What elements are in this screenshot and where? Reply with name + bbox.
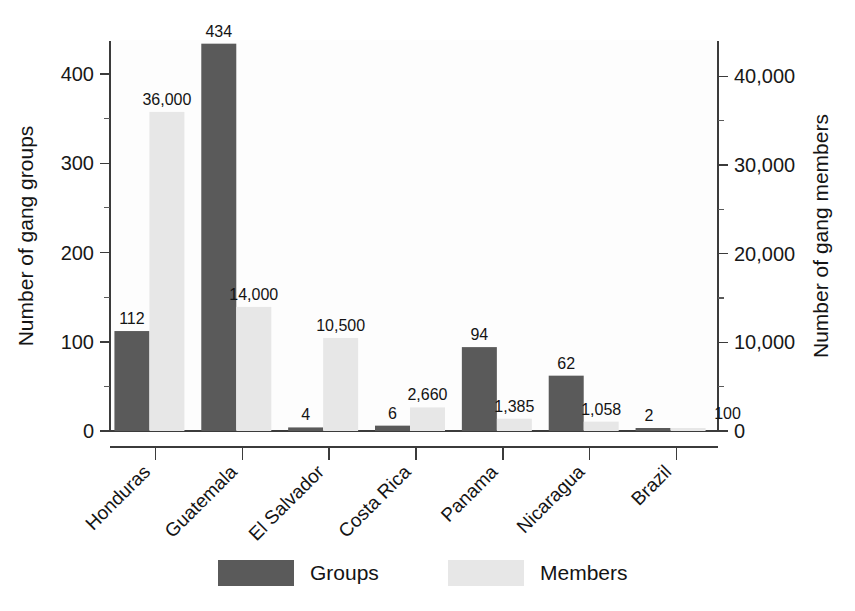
right-tick-label: 20,000 (734, 243, 795, 265)
left-axis-title: Number of gang groups (14, 126, 37, 347)
right-tick-label: 30,000 (734, 154, 795, 176)
category-label: Guatemala (161, 461, 242, 542)
value-label-members: 1,058 (581, 401, 621, 418)
right-tick-label: 40,000 (734, 65, 795, 87)
legend-swatch (218, 560, 294, 586)
category-axis-ticks (155, 447, 676, 460)
value-label-members: 14,000 (229, 286, 278, 303)
legend-label: Groups (310, 561, 379, 584)
value-label-members: 10,500 (316, 317, 365, 334)
bar-groups (114, 331, 149, 431)
right-tick-label: 10,000 (734, 331, 795, 353)
category-label: Nicaragua (512, 461, 588, 537)
bar-members (410, 407, 445, 431)
category-label: Honduras (81, 461, 154, 534)
chart-legend: GroupsMembers (218, 560, 628, 586)
right-tick-label: 0 (734, 420, 745, 442)
left-tick-label: 300 (61, 152, 94, 174)
category-label: Costa Rica (334, 461, 415, 542)
bar-members (584, 422, 619, 431)
value-label-groups: 4 (301, 406, 310, 423)
left-tick-label: 400 (61, 63, 94, 85)
bar-members (323, 338, 358, 431)
left-tick-label: 100 (61, 331, 94, 353)
value-label-members: 2,660 (407, 386, 447, 403)
category-label: Panama (437, 461, 502, 526)
bar-members (149, 112, 184, 431)
bar-groups (549, 376, 584, 431)
value-label-groups: 94 (470, 326, 488, 343)
bar-groups (462, 347, 497, 431)
legend-label: Members (540, 561, 628, 584)
bar-members (671, 428, 706, 431)
left-tick-label: 0 (83, 420, 94, 442)
left-tick-label: 200 (61, 242, 94, 264)
right-axis-ticks: 010,00020,00030,00040,000 (718, 65, 795, 442)
value-label-groups: 112 (119, 310, 145, 327)
bar-groups (288, 427, 323, 431)
value-label-groups: 6 (388, 405, 397, 422)
right-axis-title: Number of gang members (809, 114, 832, 358)
bar-members (236, 307, 271, 431)
plot-area-background (110, 40, 718, 432)
legend-swatch (448, 560, 524, 586)
gang-statistics-chart: 0100200300400 010,00020,00030,00040,000 … (0, 0, 855, 611)
category-labels-layer: HondurasGuatemalaEl SalvadorCosta RicaPa… (81, 461, 675, 545)
value-label-members: 36,000 (142, 91, 191, 108)
value-label-groups: 434 (205, 23, 232, 40)
bar-groups (636, 428, 671, 431)
value-label-members: 1,385 (494, 398, 534, 415)
category-label: El Salvador (244, 461, 328, 545)
bar-groups (201, 44, 236, 431)
category-label: Brazil (627, 461, 675, 509)
value-label-groups: 2 (645, 407, 654, 424)
value-label-members: 100 (714, 405, 741, 422)
left-axis-ticks: 0100200300400 (61, 63, 110, 442)
bar-members (497, 419, 532, 431)
chart-canvas: 0100200300400 010,00020,00030,00040,000 … (0, 0, 855, 611)
bar-groups (375, 426, 410, 431)
value-label-groups: 62 (557, 355, 575, 372)
